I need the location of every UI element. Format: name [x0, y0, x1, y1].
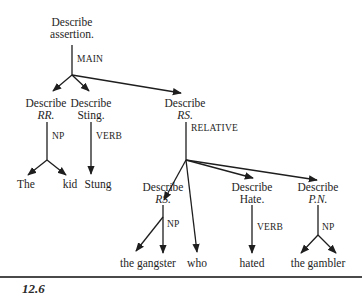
node-line1: Describe [143, 181, 184, 193]
leaf-the: The [17, 178, 35, 190]
edge-label-np: NP [167, 219, 180, 229]
edge-label-verb: VERB [96, 131, 122, 141]
leaf-who: who [187, 257, 207, 269]
node-line1: Describe [298, 181, 339, 193]
leaf-kid: kid [63, 178, 78, 190]
leaf-hated: hated [240, 257, 265, 269]
leaf-the-gangster: the gangster [120, 257, 176, 269]
edge-label-np: NP [52, 131, 65, 141]
edge-label-main: MAIN [77, 54, 103, 64]
node-describe-sting: Describe Sting. [71, 97, 112, 121]
node-line2: assertion. [50, 28, 94, 40]
edge-label-relative: RELATIVE [191, 123, 238, 133]
node-describe-hate: Describe Hate. [232, 181, 273, 205]
node-line1: Describe [26, 97, 67, 109]
node-line1: Describe [232, 181, 273, 193]
node-describe-pn: Describe P.N. [298, 181, 339, 205]
node-line2: RS. [143, 193, 184, 205]
node-line2: Hate. [232, 193, 273, 205]
node-line2: P.N. [298, 193, 339, 205]
edge-label-np: NP [322, 222, 335, 232]
node-describe-assertion: Describe assertion. [50, 16, 94, 40]
node-describe-rs: Describe RS. [165, 97, 206, 121]
node-describe-rr: Describe RR. [26, 97, 67, 121]
node-line1: Describe [165, 97, 206, 109]
node-line1: Describe [71, 97, 112, 109]
node-line1: Describe [50, 16, 94, 28]
node-line2: Sting. [71, 109, 112, 121]
leaf-stung: Stung [85, 178, 112, 190]
leaf-the-gambler: the gambler [291, 257, 346, 269]
node-line2: RS. [165, 109, 206, 121]
edge-label-verb: VERB [257, 222, 283, 232]
node-describe-rs-sub: Describe RS. [143, 181, 184, 205]
node-line2: RR. [26, 109, 67, 121]
figure-caption-number: 12.6 [22, 281, 45, 297]
caption-divider [0, 276, 362, 278]
